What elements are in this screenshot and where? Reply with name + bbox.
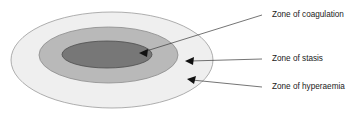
zone-label-stasis: Zone of stasis (272, 54, 323, 63)
burn-zones-svg: Zone of coagulation Zone of stasis Zone … (0, 0, 360, 115)
zone-label-coagulation: Zone of coagulation (272, 10, 344, 19)
zone-ellipse-coagulation (62, 41, 152, 68)
burn-zones-figure: Zone of coagulation Zone of stasis Zone … (0, 0, 360, 115)
leader-line-hyperaemia (192, 80, 262, 87)
zone-label-hyperaemia: Zone of hyperaemia (272, 82, 345, 91)
